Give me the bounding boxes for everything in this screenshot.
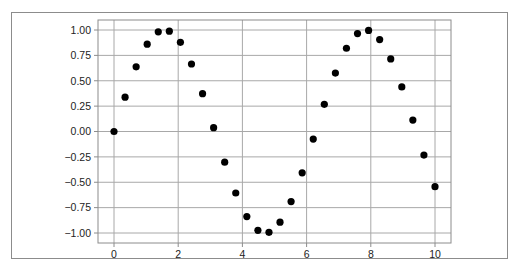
data-point	[420, 151, 427, 158]
data-point	[299, 169, 306, 176]
data-point	[310, 136, 317, 143]
x-tick-label: 2	[175, 248, 181, 260]
y-tick-label: 0.00	[71, 125, 92, 137]
data-point	[144, 41, 151, 48]
data-point	[276, 219, 283, 226]
data-point	[376, 36, 383, 43]
y-tick-label: 0.25	[71, 100, 92, 112]
data-point	[221, 159, 228, 166]
data-point	[365, 27, 372, 34]
data-point	[133, 63, 140, 70]
y-axis-ticks: 1.000.750.500.250.00−0.25−0.50−0.75−1.00	[64, 24, 98, 239]
data-point	[254, 227, 261, 234]
data-point	[354, 30, 361, 37]
x-tick-label: 4	[239, 248, 245, 260]
data-point	[166, 28, 173, 35]
data-point	[155, 28, 162, 35]
data-point	[177, 39, 184, 46]
data-point	[210, 124, 217, 131]
data-point	[431, 183, 438, 190]
x-axis-ticks: 0246810	[111, 243, 441, 260]
y-tick-label: 0.50	[71, 75, 92, 87]
data-point	[199, 90, 206, 97]
x-tick-label: 8	[368, 248, 374, 260]
x-tick-label: 6	[304, 248, 310, 260]
data-point	[287, 198, 294, 205]
data-point	[332, 69, 339, 76]
data-point	[232, 189, 239, 196]
y-tick-label: 1.00	[71, 24, 92, 36]
y-tick-label: −1.00	[64, 227, 91, 239]
y-tick-label: 0.75	[71, 49, 92, 61]
y-tick-label: −0.50	[64, 176, 91, 188]
y-tick-label: −0.75	[64, 201, 91, 213]
data-point	[121, 94, 128, 101]
data-point	[110, 128, 117, 135]
data-point	[265, 229, 272, 236]
data-point	[398, 83, 405, 90]
data-point	[188, 60, 195, 67]
data-point	[321, 101, 328, 108]
data-point	[243, 213, 250, 220]
grid-lines	[98, 20, 451, 243]
data-point	[343, 45, 350, 52]
data-point	[409, 116, 416, 123]
x-tick-label: 0	[111, 248, 117, 260]
y-tick-label: −0.25	[64, 151, 91, 163]
scatter-chart: 1.000.750.500.250.00−0.25−0.50−0.75−1.00…	[0, 0, 516, 269]
data-point	[387, 55, 394, 62]
x-tick-label: 10	[429, 248, 441, 260]
